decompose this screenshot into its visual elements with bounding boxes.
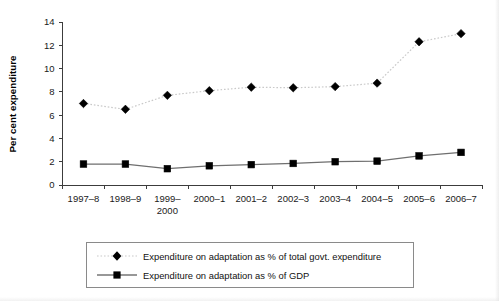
data-point-diamond xyxy=(331,82,339,90)
data-point-diamond xyxy=(289,84,297,92)
x-axis-labels-group: 1997–81998–91999–20002000–12001–22002–32… xyxy=(68,193,477,216)
y-axis-tick-label: 12 xyxy=(44,40,55,51)
data-point-square xyxy=(80,161,87,168)
data-point-square xyxy=(206,162,213,169)
data-point-diamond xyxy=(247,83,255,91)
data-point-diamond xyxy=(121,105,129,113)
x-axis-tick-label: 2005–6 xyxy=(403,193,435,204)
data-point-diamond xyxy=(79,99,87,107)
data-point-square xyxy=(332,158,339,165)
chart-container: 02468101214 Per cent expenditure 1997–81… xyxy=(0,0,499,301)
data-point-square xyxy=(458,149,465,156)
legend-item-total-govt-expenditure: Expenditure on adaptation as % of total … xyxy=(87,246,413,266)
page-edge-shadow-bottom xyxy=(0,297,499,301)
x-axis-tick-label: 1998–9 xyxy=(110,193,142,204)
chart-legend: Expenditure on adaptation as % of total … xyxy=(86,242,414,288)
series-line xyxy=(83,152,461,168)
legend-label: Expenditure on adaptation as % of GDP xyxy=(143,270,309,281)
x-axis-tick-label: 1997–8 xyxy=(68,193,100,204)
legend-label: Expenditure on adaptation as % of total … xyxy=(143,251,381,262)
y-axis-tick-label: 6 xyxy=(49,110,54,121)
data-point-square xyxy=(122,161,129,168)
x-axis-tick-label: 2004–5 xyxy=(361,193,393,204)
y-axis-tick-label: 4 xyxy=(49,133,54,144)
x-axis-tick-label: 2000–1 xyxy=(193,193,225,204)
y-axis-ticks-group: 02468101214 xyxy=(44,16,63,190)
data-point-square xyxy=(374,158,381,165)
data-point-diamond xyxy=(163,91,171,99)
x-axis-tick-label: 2002–3 xyxy=(277,193,309,204)
legend-item-gdp: Expenditure on adaptation as % of GDP xyxy=(87,265,413,285)
x-axis-tick-label: 1999– xyxy=(154,193,181,204)
x-axis-tick-label: 2006–7 xyxy=(445,193,477,204)
x-axis-tick-label: 2001–2 xyxy=(235,193,267,204)
series-line xyxy=(83,34,461,110)
data-point-square xyxy=(248,161,255,168)
legend-marker-diamond-icon xyxy=(95,248,139,264)
y-axis-tick-label: 2 xyxy=(49,156,54,167)
y-axis-tick-label: 10 xyxy=(44,63,55,74)
page-edge-shadow-right xyxy=(495,0,499,301)
data-point-square xyxy=(416,153,423,160)
y-axis-title: Per cent expenditure xyxy=(7,55,18,152)
x-axis-tick-label-line2: 2000 xyxy=(157,205,178,216)
x-axis-tick-label: 2003–4 xyxy=(319,193,351,204)
data-point-diamond xyxy=(415,38,423,46)
data-point-square xyxy=(164,165,171,172)
data-point-diamond xyxy=(457,29,465,37)
y-axis-tick-label: 0 xyxy=(49,179,54,190)
data-point-diamond xyxy=(205,86,213,94)
series-layer xyxy=(79,29,465,172)
legend-marker-square-icon xyxy=(95,267,139,283)
y-axis-tick-label: 8 xyxy=(49,86,54,97)
data-point-square xyxy=(290,160,297,167)
y-axis-tick-label: 14 xyxy=(44,16,55,27)
